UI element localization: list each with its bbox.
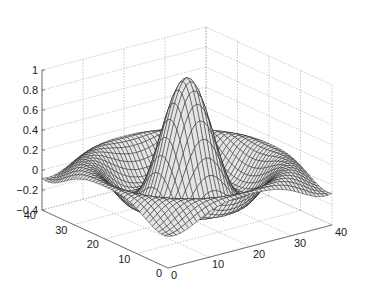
surface-mesh	[42, 78, 332, 237]
tick-label: 0.4	[23, 124, 38, 136]
tick-label: 0	[32, 164, 38, 176]
tick-label: 0.2	[23, 144, 38, 156]
tick-label: 0	[171, 269, 177, 281]
tick-label: 20	[253, 248, 265, 260]
tick-label: 20	[87, 238, 99, 250]
tick-label: 30	[55, 224, 67, 236]
tick-label: 1	[32, 64, 38, 76]
tick-label: −0.2	[16, 184, 38, 196]
tick-label: 0.8	[23, 84, 38, 96]
tick-label: 40	[335, 226, 347, 238]
tick-label: 0.6	[23, 104, 38, 116]
tick-label: 10	[212, 258, 224, 270]
tick-label: 30	[294, 237, 306, 249]
surface-plot: −0.4−0.200.20.40.60.81010203040010203040	[0, 0, 369, 287]
tick-label: 0	[156, 267, 162, 279]
tick-label: 40	[24, 209, 36, 221]
tick-label: 10	[118, 253, 130, 265]
